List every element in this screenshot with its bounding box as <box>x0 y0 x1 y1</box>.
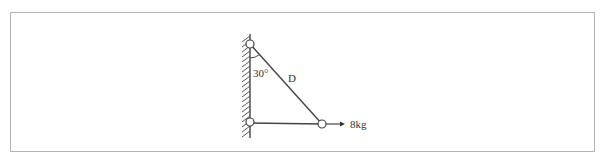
bottom-pin-joint <box>246 118 254 126</box>
top-pin-joint <box>246 40 254 48</box>
angle-arc <box>250 55 260 59</box>
load-joint <box>318 120 326 128</box>
member-horizontal <box>250 123 322 124</box>
member-d <box>250 44 322 124</box>
angle-label: 30° <box>253 67 268 79</box>
member-label: D <box>288 72 296 84</box>
truss-diagram: 30° D 8kg <box>0 0 600 165</box>
load-label: 8kg <box>350 118 367 130</box>
load-arrow <box>326 122 345 127</box>
